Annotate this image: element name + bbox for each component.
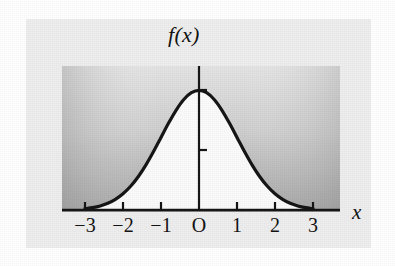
- x-tick-label-2: 2: [258, 214, 292, 237]
- x-tick-label-minus1: −1: [144, 214, 178, 237]
- x-tick-label-minus2: −2: [106, 214, 140, 237]
- y-axis-label: f(x): [168, 22, 200, 48]
- normal-curve-plot: [62, 66, 340, 212]
- x-tick-label-1: 1: [220, 214, 254, 237]
- x-tick-label-3: 3: [296, 214, 330, 237]
- figure-container: f(x) x 0.4 0.2 −3 −2 −1 O 1 2 3: [0, 0, 395, 266]
- x-axis-label: x: [352, 200, 361, 225]
- x-tick-label-origin: O: [182, 214, 216, 237]
- x-tick-label-minus3: −3: [68, 214, 102, 237]
- plot-area: [62, 66, 340, 212]
